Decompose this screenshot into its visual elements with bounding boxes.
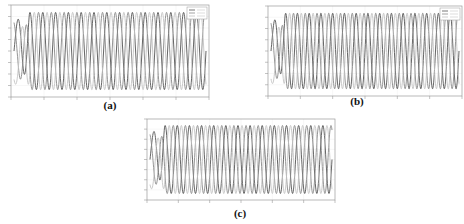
waveform-plot-c [147,119,335,200]
panel-a [11,5,209,97]
caption-c: (c) [225,207,255,219]
waveform-plot-b [268,6,462,96]
caption-b: (b) [342,95,372,107]
caption-a: (a) [95,99,125,111]
panel-c [147,119,335,200]
panel-b [268,6,462,96]
waveform-plot-a [11,5,209,97]
